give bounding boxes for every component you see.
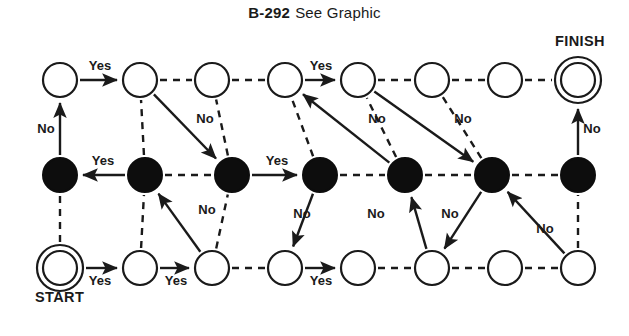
node-start[interactable] bbox=[37, 245, 83, 291]
node-b3-circle bbox=[195, 251, 229, 285]
node-finish-inner-ring bbox=[561, 63, 595, 97]
node-m7-circle bbox=[561, 158, 595, 192]
node-b8-circle bbox=[561, 251, 595, 285]
edge-e-d-1 bbox=[154, 94, 216, 158]
node-t2-circle bbox=[123, 63, 157, 97]
node-m6-circle bbox=[475, 158, 509, 192]
edge-label-e-v-12: No bbox=[367, 206, 384, 221]
node-t2[interactable] bbox=[123, 63, 157, 97]
node-finish[interactable] bbox=[555, 57, 601, 103]
node-b2[interactable] bbox=[123, 251, 157, 285]
edge-label-e-v-11: No bbox=[293, 206, 310, 221]
start-label: START bbox=[35, 289, 84, 305]
node-t1-circle bbox=[43, 63, 77, 97]
finish-label: FINISH bbox=[555, 33, 605, 49]
node-m6[interactable] bbox=[475, 158, 509, 192]
node-m2[interactable] bbox=[128, 158, 162, 192]
node-b6-circle bbox=[415, 251, 449, 285]
node-m1[interactable] bbox=[43, 158, 77, 192]
node-start-inner-ring bbox=[43, 251, 77, 285]
node-m1-circle bbox=[43, 158, 77, 192]
node-b5[interactable] bbox=[341, 251, 375, 285]
edge-e-v-3 bbox=[216, 100, 228, 156]
node-t5[interactable] bbox=[341, 63, 375, 97]
edge-label-e-d-1: No bbox=[196, 111, 213, 126]
flow-diagram: YesYesYesYesYesYesYesNoNoNoNoNoNoNoNoNoN… bbox=[0, 0, 629, 336]
diagram-page: B-292See Graphic YesYesYesYesYesYesYesNo… bbox=[0, 0, 629, 336]
node-m4[interactable] bbox=[303, 158, 337, 192]
node-m5[interactable] bbox=[388, 158, 422, 192]
edge-label-e-d-3: No bbox=[454, 111, 471, 126]
edge-e-v-10 bbox=[216, 195, 228, 249]
node-b8[interactable] bbox=[561, 251, 595, 285]
edge-e-v-4 bbox=[292, 99, 313, 156]
edge-e-v-12 bbox=[411, 197, 426, 249]
node-b3[interactable] bbox=[195, 251, 229, 285]
node-t4-circle bbox=[268, 63, 302, 97]
node-t3[interactable] bbox=[195, 63, 229, 97]
node-m2-circle bbox=[128, 158, 162, 192]
edge-label-e-bot-1: Yes bbox=[89, 273, 111, 288]
node-m4-circle bbox=[303, 158, 337, 192]
node-t6-circle bbox=[415, 63, 449, 97]
edge-label-e-v-13: No bbox=[441, 206, 458, 221]
node-m3[interactable] bbox=[215, 158, 249, 192]
edge-label-e-top-1: Yes bbox=[89, 58, 111, 73]
edge-label-e-mid-3: Yes bbox=[266, 153, 288, 168]
edge-e-d-2 bbox=[303, 94, 389, 162]
edge-label-e-v-1: No bbox=[37, 121, 54, 136]
node-t1[interactable] bbox=[43, 63, 77, 97]
node-t6[interactable] bbox=[415, 63, 449, 97]
edge-label-e-d-5: No bbox=[536, 221, 553, 236]
node-t3-circle bbox=[195, 63, 229, 97]
node-b2-circle bbox=[123, 251, 157, 285]
edge-label-e-mid-1: Yes bbox=[92, 153, 114, 168]
edge-e-v-9 bbox=[141, 195, 144, 248]
edge-label-e-v-7: No bbox=[583, 121, 600, 136]
node-t5-circle bbox=[341, 63, 375, 97]
node-t7-circle bbox=[488, 63, 522, 97]
edge-label-e-top-4: Yes bbox=[310, 58, 332, 73]
node-t4[interactable] bbox=[268, 63, 302, 97]
edge-e-d-3 bbox=[374, 92, 473, 162]
edge-label-e-bot-4: Yes bbox=[310, 273, 332, 288]
node-b5-circle bbox=[341, 251, 375, 285]
edge-label-e-d-2: No bbox=[368, 111, 385, 126]
node-m3-circle bbox=[215, 158, 249, 192]
edge-e-d-4 bbox=[158, 194, 200, 252]
edge-label-e-bot-2: Yes bbox=[165, 273, 187, 288]
node-t7[interactable] bbox=[488, 63, 522, 97]
edge-label-e-d-4: No bbox=[198, 202, 215, 217]
node-b6[interactable] bbox=[415, 251, 449, 285]
node-b4[interactable] bbox=[268, 251, 302, 285]
edge-e-v-6 bbox=[443, 97, 482, 158]
node-b4-circle bbox=[268, 251, 302, 285]
node-m5-circle bbox=[388, 158, 422, 192]
node-b7-circle bbox=[488, 251, 522, 285]
edge-e-v-2 bbox=[141, 100, 144, 155]
node-b7[interactable] bbox=[488, 251, 522, 285]
node-m7[interactable] bbox=[561, 158, 595, 192]
